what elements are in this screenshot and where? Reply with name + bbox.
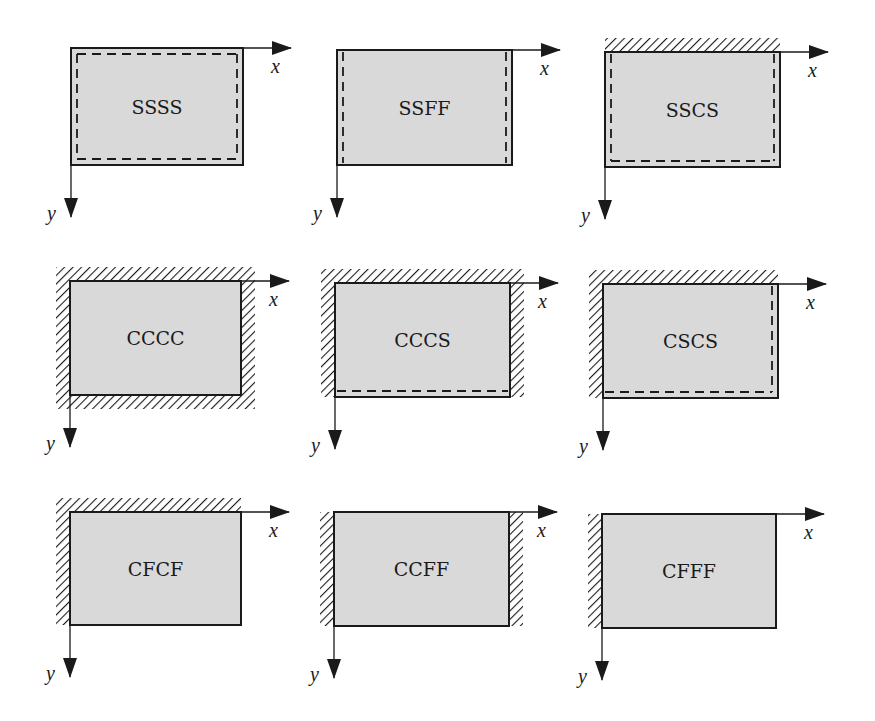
clamped-edge-top	[56, 498, 241, 512]
plate-label: CCCS	[394, 329, 451, 351]
y-axis-label: y	[308, 663, 319, 686]
clamped-edge-left	[588, 514, 602, 628]
panel-ssff: SSFFxy	[311, 50, 560, 225]
x-axis-label: x	[537, 290, 547, 312]
y-axis-label: y	[44, 662, 55, 685]
x-axis-label: x	[536, 519, 546, 541]
panel-cccs: CCCSxy	[309, 269, 558, 457]
clamped-edge-top	[605, 38, 780, 52]
panel-sscs: SSCSxy	[579, 38, 828, 227]
plate-label: SSCS	[666, 99, 719, 121]
plate-label: CFFF	[662, 560, 716, 582]
y-axis-label: y	[579, 204, 590, 227]
boundary-conditions-figure: SSSSxySSFFxySSCSxyCCCCxyCCCSxyCSCSxyCFCF…	[0, 0, 875, 721]
x-axis-label: x	[270, 55, 280, 77]
clamped-edge-left	[321, 283, 335, 397]
x-axis-label: x	[807, 59, 817, 81]
clamped-edge-right	[241, 281, 255, 395]
clamped-edge-bottom	[56, 395, 255, 409]
y-axis-label: y	[45, 202, 56, 225]
clamped-edge-left	[56, 512, 70, 625]
panel-ssss: SSSSxy	[45, 48, 291, 225]
x-axis-label: x	[268, 519, 278, 541]
plate-label: CCFF	[394, 558, 449, 580]
x-axis-label: x	[805, 291, 815, 313]
y-axis-label: y	[309, 434, 320, 457]
x-axis-label: x	[268, 288, 278, 310]
plate-label: CSCS	[663, 330, 718, 352]
clamped-edge-left	[320, 512, 334, 626]
y-axis-label: y	[576, 665, 587, 688]
panel-cscs: CSCSxy	[577, 270, 826, 458]
x-axis-label: x	[539, 57, 549, 79]
plate-label: SSFF	[398, 97, 450, 119]
y-axis-label: y	[577, 435, 588, 458]
clamped-edge-left	[589, 284, 603, 398]
clamped-edge-top	[56, 267, 255, 281]
plate-label: SSSS	[131, 96, 182, 118]
y-axis-label: y	[311, 202, 322, 225]
clamped-edge-right	[510, 283, 524, 397]
plate-label: CCCC	[126, 327, 184, 349]
clamped-edge-top	[589, 270, 778, 284]
x-axis-label: x	[803, 521, 813, 543]
y-axis-label: y	[44, 432, 55, 455]
clamped-edge-left	[56, 281, 70, 395]
clamped-edge-right	[509, 512, 523, 626]
clamped-edge-top	[321, 269, 524, 283]
panel-ccff: CCFFxy	[308, 512, 557, 686]
plate-label: CFCF	[128, 558, 183, 580]
panel-cccc: CCCCxy	[44, 267, 289, 455]
panel-cfff: CFFFxy	[576, 514, 824, 688]
panel-cfcf: CFCFxy	[44, 498, 289, 685]
